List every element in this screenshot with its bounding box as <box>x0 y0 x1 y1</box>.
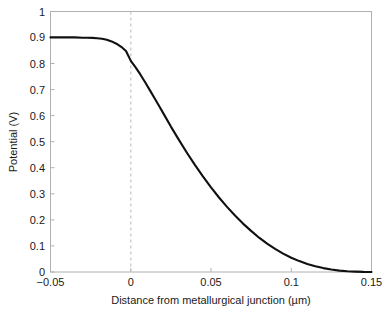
x-tick-label: 0.05 <box>200 276 221 288</box>
y-tick-label: 0.6 <box>30 110 45 122</box>
x-tick-label: 0 <box>128 276 134 288</box>
y-tick-label: 0.4 <box>30 162 45 174</box>
x-tick-label: −0.05 <box>37 276 65 288</box>
y-tick-label: 1 <box>39 6 45 18</box>
x-tick-label: 0.1 <box>284 276 299 288</box>
x-tick-label: 0.15 <box>361 276 382 288</box>
potential-vs-distance-chart: 0 0.1 0.2 0.3 0.4 0.5 0.6 0.7 0.8 0.9 1 … <box>0 0 391 315</box>
y-tick-label: 0.2 <box>30 214 45 226</box>
y-tick-label: 0.8 <box>30 58 45 70</box>
chart-figure: 0 0.1 0.2 0.3 0.4 0.5 0.6 0.7 0.8 0.9 1 … <box>0 0 391 315</box>
y-tick-label: 0.1 <box>30 240 45 252</box>
y-tick-label: 0.5 <box>30 136 45 148</box>
y-tick-label: 0.7 <box>30 84 45 96</box>
x-axis-title: Distance from metallurgical junction (µm… <box>111 294 311 306</box>
y-tick-label: 0.9 <box>30 31 45 43</box>
y-axis-title: Potential (V) <box>7 112 19 173</box>
figure-background <box>0 0 391 315</box>
y-tick-label: 0.3 <box>30 188 45 200</box>
